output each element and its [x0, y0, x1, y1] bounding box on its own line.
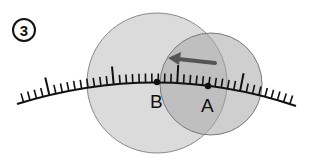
minor-tick	[34, 90, 36, 99]
minor-tick	[41, 88, 43, 97]
minor-tick	[265, 88, 267, 97]
diagram-stage: 3 B A	[0, 0, 309, 164]
minor-tick	[196, 76, 197, 85]
step-number-badge: 3	[12, 18, 36, 42]
major-tick	[45, 78, 49, 96]
point-b-label: B	[150, 91, 163, 112]
minor-tick	[54, 85, 56, 94]
major-tick	[177, 65, 178, 83]
minor-tick	[290, 95, 293, 104]
minor-tick	[184, 74, 185, 83]
ruler-diagram: B A	[0, 0, 309, 164]
minor-tick	[106, 76, 107, 85]
point-a-label: A	[201, 95, 214, 116]
minor-tick	[119, 75, 120, 84]
minor-tick	[277, 92, 280, 101]
minor-tick	[126, 75, 127, 84]
minor-tick	[284, 93, 287, 102]
minor-tick	[203, 76, 204, 85]
small-circle	[160, 33, 262, 135]
minor-tick	[271, 90, 273, 99]
minor-tick	[74, 81, 76, 90]
minor-tick	[100, 77, 101, 86]
point-a-dot	[205, 83, 211, 89]
point-b-dot	[154, 79, 160, 85]
minor-tick	[190, 75, 191, 84]
minor-tick	[21, 93, 24, 102]
minor-tick	[28, 92, 30, 101]
minor-tick	[67, 82, 69, 91]
minor-tick	[61, 84, 63, 93]
minor-tick	[80, 80, 81, 89]
